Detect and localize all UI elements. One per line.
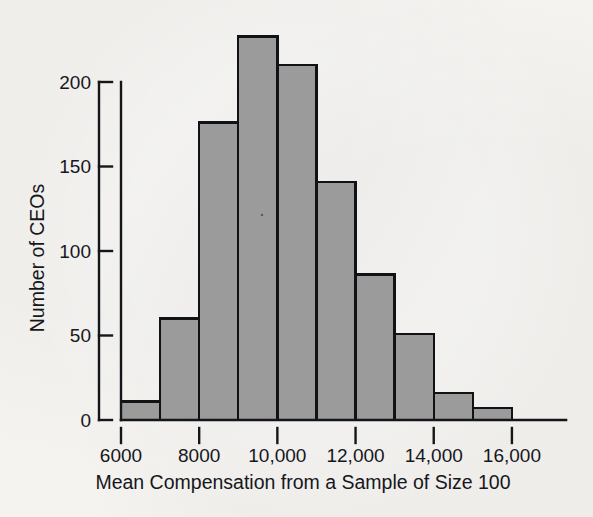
y-axis-tick-label: 200 (59, 72, 91, 93)
y-axis-tick-label: 0 (80, 410, 91, 431)
histogram-bar (160, 319, 199, 420)
y-axis-tick-labels: 050100150200 (59, 72, 91, 431)
x-axis-tick-label: 14,000 (405, 445, 463, 466)
histogram-bar (395, 334, 434, 420)
histogram-bar (277, 65, 316, 420)
bars-group (121, 36, 512, 420)
x-axis-tick-label: 16,000 (483, 445, 541, 466)
y-axis-ticks (99, 82, 112, 420)
y-axis-tick-label: 150 (59, 156, 91, 177)
histogram-bar (121, 401, 160, 420)
histogram-bar (434, 393, 473, 420)
y-axis-tick-label: 100 (59, 241, 91, 262)
x-axis-ticks (121, 428, 512, 443)
histogram-bar (356, 275, 395, 420)
histogram-bar (316, 182, 355, 420)
histogram-figure: 050100150200 6000800010,00012,00014,0001… (0, 0, 593, 517)
histogram-bar (473, 408, 512, 420)
x-axis-tick-label: 10,000 (248, 445, 306, 466)
y-axis-tick-label: 50 (70, 325, 91, 346)
y-axis-title: Number of CEOs (26, 184, 48, 333)
histogram-svg: 050100150200 6000800010,00012,00014,0001… (0, 0, 593, 517)
x-axis-tick-labels: 6000800010,00012,00014,00016,000 (100, 445, 541, 466)
x-axis-tick-label: 8000 (178, 445, 220, 466)
histogram-bar (238, 36, 277, 420)
scan-speck (261, 214, 264, 217)
x-axis-tick-label: 6000 (100, 445, 142, 466)
histogram-bar (199, 123, 238, 420)
x-axis-tick-label: 12,000 (326, 445, 384, 466)
x-axis-title: Mean Compensation from a Sample of Size … (95, 471, 510, 493)
